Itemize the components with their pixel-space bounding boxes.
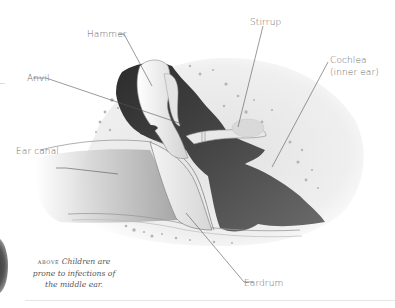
oval-window [232, 119, 264, 137]
ear-diagram-figure: Hammer Anvil Stirrup Cochlea (inner ear)… [0, 0, 395, 308]
label-anvil: Anvil [27, 73, 50, 84]
label-eardrum: Eardrum [244, 278, 283, 289]
label-hammer: Hammer [87, 29, 127, 40]
bottom-divider [25, 300, 395, 301]
figure-caption: above Children are prone to infections o… [26, 256, 122, 291]
label-cochlea: Cochlea [330, 55, 367, 66]
caption-lead: above [38, 257, 60, 266]
label-ear-canal: Ear canal [16, 146, 59, 157]
edge-mark [0, 83, 5, 84]
label-stirrup: Stirrup [250, 17, 281, 28]
label-cochlea-subtitle: (inner ear) [330, 67, 379, 78]
